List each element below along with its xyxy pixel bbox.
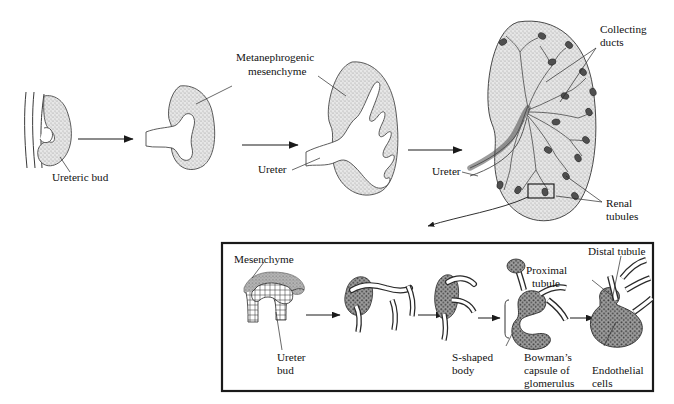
label-ureteric-bud: Ureteric bud [52,172,108,184]
label-mesenchyme: Mesenchyme [234,254,294,266]
label-ureter-bud-line2: bud [277,365,294,377]
label-proximal-tubule-line1: Proximal [526,265,567,277]
label-ureter-bud-line1: Ureter [277,352,306,364]
label-ureter-right: Ureter [432,166,461,178]
label-proximal-tubule-line2: tubule [532,278,560,290]
top-stage-1-ureteric-bud [25,92,72,172]
label-collecting-ducts-line2: ducts [600,37,624,49]
label-s-shaped-body-line2: body [452,365,474,377]
label-metanephrogenic-mesenchyme-line2: mesenchyme [248,66,306,78]
label-metanephrogenic-mesenchyme-line1: Metanephrogenic [236,52,314,64]
label-collecting-ducts-line1: Collecting [600,24,647,36]
label-renal-tubules-line2: tubules [606,211,638,223]
top-stage-2-t-shaped-bud [146,86,232,170]
top-stage-3-branching-kidney [292,62,398,195]
label-bowmans-capsule-line2: capsule of [524,365,570,377]
label-distal-tubule: Distal tubule [588,246,645,258]
label-bowmans-capsule-line3: glomerulus [524,378,574,390]
diagram-svg [0,0,674,404]
label-ureter-middle: Ureter [258,164,287,176]
top-stage-4-mature-kidney [428,21,602,226]
label-s-shaped-body-line1: S-shaped [452,352,493,364]
label-endothelial-cells-line2: cells [592,378,613,390]
figure-canvas: Ureteric bud Metanephrogenic mesenchyme … [0,0,674,404]
label-endothelial-cells-line1: Endothelial [592,365,644,377]
label-renal-tubules-line1: Renal [606,198,632,210]
label-bowmans-capsule-line1: Bowman’s [524,352,572,364]
